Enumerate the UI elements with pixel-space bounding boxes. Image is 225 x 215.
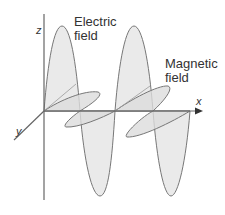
em-wave-diagram: z x y Electric field Magnetic field (0, 0, 225, 215)
y-axis-label: y (16, 125, 22, 137)
electric-label-line1: Electric (74, 15, 117, 29)
electric-field-label: Electric field (74, 15, 117, 43)
z-axis-label: z (36, 24, 42, 36)
x-axis-arrow-icon (195, 108, 203, 115)
magnetic-label-line2: field (165, 71, 218, 85)
magnetic-label-line1: Magnetic (165, 57, 218, 71)
x-axis-label: x (196, 95, 202, 107)
magnetic-field-label: Magnetic field (165, 57, 218, 85)
electric-label-line2: field (74, 29, 117, 43)
